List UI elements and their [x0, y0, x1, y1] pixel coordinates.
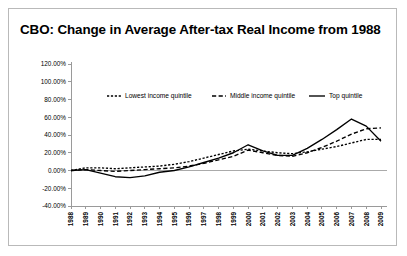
x-axis-tick-label: 1994 — [156, 212, 163, 227]
y-axis-tick-label: 60.00% — [44, 114, 66, 121]
x-axis-tick-label: 2001 — [259, 212, 266, 227]
series-line-top-quintile — [71, 119, 381, 178]
x-axis-tick-label: 2008 — [363, 212, 370, 227]
legend-label: Top quintile — [329, 92, 363, 100]
x-axis-tick-label: 2005 — [318, 212, 325, 227]
x-axis-tick-label: 2007 — [348, 212, 355, 227]
x-axis-tick-label: 2006 — [333, 212, 340, 227]
y-axis-tick-label: 100.00% — [41, 78, 67, 85]
x-axis-tick-label: 1992 — [126, 212, 133, 227]
chart-legend: Lowest income quintileMiddle income quin… — [107, 92, 363, 100]
x-axis-labels: 1988198919901991199219931994199519961997… — [67, 212, 384, 227]
x-axis-tick-label: 1991 — [112, 212, 119, 227]
x-axis-tick-label: 2004 — [304, 212, 311, 227]
y-axis-tick-label: 40.00% — [44, 131, 66, 138]
line-chart: 120.00%100.00%80.00%60.00%40.00%20.00%0.… — [9, 9, 397, 246]
x-axis-tick-label: 2000 — [245, 212, 252, 227]
x-axis-tick-label: 1997 — [200, 212, 207, 227]
y-axis-tick-label: 80.00% — [44, 96, 66, 103]
x-axis-tick-label: 1993 — [141, 212, 148, 227]
y-axis-tick-label: -40.00% — [42, 202, 66, 209]
x-axis-tick-label: 2002 — [274, 212, 281, 227]
legend-label: Middle income quintile — [230, 92, 296, 100]
y-axis-tick-label: -20.00% — [42, 185, 66, 192]
x-axis-tick-label: 1999 — [230, 212, 237, 227]
x-axis-tick-label: 2009 — [377, 212, 384, 227]
x-axis-tick-label: 1988 — [67, 212, 74, 227]
x-axis-tick-label: 1996 — [185, 212, 192, 227]
x-axis-tick-label: 1990 — [97, 212, 104, 227]
y-axis-tick-label: 0.00% — [48, 167, 66, 174]
x-axis-tick-label: 1998 — [215, 212, 222, 227]
y-axis-tick-label: 120.00% — [41, 60, 67, 67]
series-line-middle-income-quintile — [71, 128, 381, 171]
x-axis-tick-label: 2003 — [289, 212, 296, 227]
x-axis-tick-label: 1989 — [82, 212, 89, 227]
y-axis-labels: 120.00%100.00%80.00%60.00%40.00%20.00%0.… — [41, 60, 67, 209]
chart-plot-area: 120.00%100.00%80.00%60.00%40.00%20.00%0.… — [9, 9, 397, 246]
y-axis-tick-label: 20.00% — [44, 149, 66, 156]
chart-series-group — [71, 119, 381, 178]
legend-label: Lowest income quintile — [125, 92, 192, 100]
chart-card: CBO: Change in Average After-tax Real In… — [8, 8, 397, 246]
x-axis-tick-label: 1995 — [171, 212, 178, 227]
